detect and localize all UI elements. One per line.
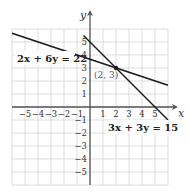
- intersection-label: (2, 3): [94, 70, 118, 80]
- y-tick-label: −5: [74, 167, 87, 177]
- coordinate-plane: −5−4−3−2−11234554321−1−2−3−4−5 x y 2x + …: [0, 0, 190, 195]
- x-tick-label: −5: [19, 109, 32, 119]
- y-axis-label: y: [79, 9, 87, 22]
- y-tick-label: 2: [82, 76, 87, 86]
- y-tick-label: 1: [82, 89, 87, 99]
- x-tick-label: −3: [45, 109, 58, 119]
- x-tick-label: 4: [139, 109, 144, 119]
- x-axis-label: x: [178, 107, 185, 120]
- x-tick-label: −2: [58, 109, 71, 119]
- x-tick-label: −4: [32, 109, 45, 119]
- y-tick-label: −1: [74, 115, 87, 125]
- x-tick-label: 5: [152, 109, 157, 119]
- x-tick-label: 3: [126, 109, 131, 119]
- x-tick-label: 1: [100, 109, 105, 119]
- y-tick-label: 3: [82, 63, 87, 73]
- line1-equation-label: 2x + 6y = 22: [17, 53, 87, 64]
- line2-equation-label: 3x + 3y = 15: [108, 122, 178, 133]
- x-tick-label: 2: [113, 109, 118, 119]
- y-tick-label: −4: [74, 154, 87, 164]
- y-tick-label: −3: [74, 141, 87, 151]
- y-tick-label: −2: [74, 128, 87, 138]
